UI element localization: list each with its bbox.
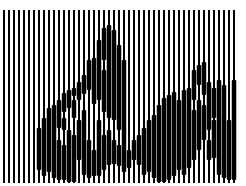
stripe-line [3, 10, 5, 183]
stripe-thick-segment [112, 140, 117, 164]
stripe-thick-segment [87, 140, 92, 178]
stripe-thick-segment [217, 80, 222, 175]
stripe-thick-segment [52, 105, 57, 178]
stripe-thick-segment [62, 118, 67, 130]
stripe-thick-segment [77, 82, 82, 100]
stripe-thick-segment [212, 88, 217, 118]
stripe-thick-segment [62, 145, 67, 180]
stripe-thick-segment [122, 60, 127, 172]
stripe-thick-segment [127, 150, 132, 168]
stripe-thick-segment [197, 100, 202, 150]
stripe-thick-segment [57, 100, 62, 128]
stripe-thick-segment [102, 28, 107, 60]
stripe-thick-segment [117, 45, 122, 130]
stripe-thick-segment [72, 88, 77, 96]
stripe-thick-segment [117, 145, 122, 166]
stripe-thick-segment [67, 90, 72, 108]
stripe-thick-segment [102, 70, 107, 112]
stripe-thick-segment [207, 140, 212, 160]
stripe-thick-segment [227, 120, 232, 180]
stripe-line [8, 10, 10, 183]
stripe-thick-segment [212, 120, 217, 158]
stripe-thick-segment [137, 135, 142, 165]
stripe-line [13, 10, 15, 183]
stripe-thick-segment [42, 118, 47, 176]
stripe-thick-segment [97, 40, 102, 100]
stripe-thick-segment [62, 93, 67, 112]
stripe-thick-segment [92, 150, 97, 176]
stripe-line [198, 10, 200, 183]
stripe-thick-segment [132, 140, 137, 160]
stripe-thick-segment [97, 120, 102, 176]
stripe-thick-segment [192, 70, 197, 100]
stripe-thick-segment [157, 105, 162, 182]
stripe-thick-segment [172, 92, 177, 176]
stripe-thick-segment [72, 135, 77, 182]
stripe-thick-segment [207, 82, 212, 130]
stripe-thick-segment [102, 135, 107, 170]
stripe-thick-segment [152, 115, 157, 178]
stripe-thick-segment [202, 62, 207, 95]
stripe-thick-segment [222, 85, 227, 178]
stripe-thick-segment [187, 88, 192, 168]
stripe-line [28, 10, 30, 183]
stripe-thick-segment [57, 140, 62, 180]
stripe-thick-segment [82, 110, 87, 175]
stripe-thick-segment [47, 108, 52, 172]
stripe-thick-segment [112, 30, 117, 120]
stripe-thick-segment [162, 98, 167, 182]
stripe-thick-segment [92, 58, 97, 104]
stripe-thick-segment [177, 100, 182, 170]
stripe-line [33, 10, 35, 183]
stripe-thick-segment [142, 128, 147, 175]
stripe-line [18, 10, 20, 183]
stripe-thick-segment [107, 130, 112, 165]
stripe-thick-segment [232, 80, 237, 180]
stripe-thick-segment [72, 100, 77, 118]
stripe-thick-segment [147, 120, 152, 172]
stripe-thick-segment [197, 65, 202, 85]
stripe-thick-segment [67, 130, 72, 182]
stripe-line [23, 10, 25, 183]
stripe-thick-segment [202, 105, 207, 140]
stripe-thick-segment [107, 25, 112, 118]
stripe-thick-segment [37, 128, 42, 170]
stripe-thick-segment [192, 110, 197, 160]
stripe-thick-segment [77, 120, 82, 160]
stripe-thick-segment [182, 90, 187, 175]
stripe-line [203, 10, 205, 183]
stripe-thick-segment [82, 75, 87, 94]
line-illusion-image [0, 0, 246, 186]
stripe-thick-segment [167, 95, 172, 180]
stripe-thick-segment [87, 60, 92, 90]
